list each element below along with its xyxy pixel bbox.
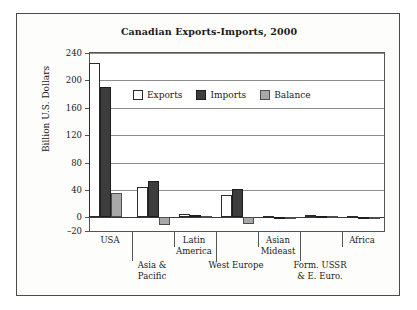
gridline-240 (90, 53, 384, 54)
bar-exports-3 (221, 195, 232, 217)
gridline-200 (90, 80, 384, 81)
bar-imports-3 (232, 189, 243, 217)
bar-imports-0 (100, 87, 111, 218)
bar-imports-5 (316, 216, 327, 218)
gridline-80 (90, 163, 384, 164)
legend-item-imports: Imports (196, 90, 246, 100)
bar-exports-6 (347, 216, 358, 218)
bar-balance-5 (327, 216, 338, 218)
bar-exports-0 (89, 63, 100, 217)
bar-exports-1 (137, 187, 148, 217)
chart-frame: Canadian Exports-Imports, 2000 Billion U… (16, 13, 400, 296)
bar-imports-1 (148, 181, 159, 217)
bar-exports-5 (305, 215, 316, 217)
x-category-label-4: AsianMideast (261, 235, 296, 256)
x-category-label-0: USA (100, 235, 119, 246)
bar-balance-4 (285, 217, 296, 219)
y-tick-label-200: 200 (66, 75, 82, 85)
bar-balance-6 (369, 217, 380, 219)
y-axis-title: Billion U.S. Dollars (41, 66, 51, 152)
category-separator-2 (174, 231, 175, 247)
y-tick-label-40: 40 (71, 185, 82, 195)
legend-label-exports: Exports (147, 90, 182, 100)
bar-balance-2 (201, 216, 212, 218)
bar-imports-2 (190, 215, 201, 217)
bar-balance-3 (243, 217, 254, 224)
bar-imports-4 (274, 217, 285, 219)
bar-exports-4 (263, 216, 274, 218)
y-tick-label--20: –20 (67, 226, 82, 236)
category-separator-4 (258, 231, 259, 247)
chart-legend: Exports Imports Balance (133, 90, 311, 100)
y-tick-0 (85, 217, 90, 218)
bar-imports-6 (358, 217, 369, 219)
y-tick-label-160: 160 (66, 103, 82, 113)
legend-item-balance: Balance (260, 90, 310, 100)
category-separator-1 (132, 231, 133, 261)
x-category-label-3: West Europe (209, 260, 264, 271)
y-tick-label-80: 80 (71, 158, 82, 168)
chart-title: Canadian Exports-Imports, 2000 (17, 26, 401, 37)
legend-swatch-exports (133, 90, 143, 100)
y-tick-label-0: 0 (77, 212, 82, 222)
gridline-120 (90, 135, 384, 136)
x-category-label-6: Africa (349, 235, 375, 246)
category-separator-6 (342, 231, 343, 247)
legend-swatch-imports (196, 90, 206, 100)
category-separator-3 (216, 231, 217, 261)
bar-exports-2 (179, 214, 190, 217)
y-tick-240 (85, 53, 90, 54)
plot-area: –2004080120160200240 (89, 52, 385, 232)
category-separator-5 (300, 231, 301, 261)
x-category-label-2: LatinAmerica (176, 235, 212, 256)
x-category-label-1: Asia &Pacific (138, 260, 167, 281)
y-tick-label-240: 240 (66, 48, 82, 58)
gridline-0 (90, 217, 384, 218)
y-tick--20 (85, 231, 90, 232)
x-category-label-5: Form. USSR& E. Euro. (293, 260, 346, 281)
legend-swatch-balance (260, 90, 270, 100)
legend-label-balance: Balance (274, 90, 310, 100)
legend-label-imports: Imports (210, 90, 246, 100)
legend-item-exports: Exports (133, 90, 182, 100)
y-tick-label-120: 120 (66, 130, 82, 140)
bar-balance-0 (111, 193, 122, 218)
bar-balance-1 (159, 217, 170, 225)
gridline-160 (90, 108, 384, 109)
